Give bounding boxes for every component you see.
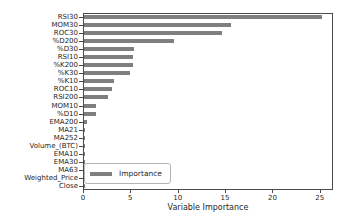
y-tick-label: Close bbox=[0, 182, 78, 190]
y-tick-mark bbox=[79, 130, 83, 131]
x-tick-mark bbox=[272, 190, 273, 193]
x-tick-label: 5 bbox=[128, 194, 132, 202]
x-tick-label: 20 bbox=[268, 194, 277, 202]
bar-ma252 bbox=[84, 136, 85, 140]
bar-mom10 bbox=[84, 104, 96, 108]
bar-ema10 bbox=[84, 152, 85, 156]
y-tick-label: Volume_(BTC) bbox=[0, 142, 78, 150]
x-tick-mark bbox=[130, 190, 131, 193]
legend-label: Importance bbox=[119, 169, 162, 178]
y-tick-mark bbox=[79, 57, 83, 58]
y-tick-mark bbox=[79, 33, 83, 34]
y-tick-mark bbox=[79, 17, 83, 18]
bar--k30 bbox=[84, 71, 130, 75]
y-tick-label: EMA200 bbox=[0, 118, 78, 126]
y-tick-mark bbox=[79, 138, 83, 139]
bar--k10 bbox=[84, 79, 114, 83]
variable-importance-chart: RSI30MOM30ROC30%D200%D30RSI10%K200%K30%K… bbox=[0, 0, 352, 220]
y-tick-label: MOM30 bbox=[0, 21, 78, 29]
y-tick-mark bbox=[79, 186, 83, 187]
x-tick-label: 10 bbox=[173, 194, 182, 202]
y-tick-label: EMA30 bbox=[0, 158, 78, 166]
y-tick-label: ROC10 bbox=[0, 85, 78, 93]
bar-rsi10 bbox=[84, 55, 133, 59]
y-tick-label: ROC30 bbox=[0, 29, 78, 37]
y-tick-mark bbox=[79, 73, 83, 74]
y-tick-label: MA252 bbox=[0, 134, 78, 142]
y-tick-mark bbox=[79, 65, 83, 66]
y-tick-mark bbox=[79, 89, 83, 90]
bar--d30 bbox=[84, 47, 134, 51]
y-tick-mark bbox=[79, 146, 83, 147]
bar-ma21 bbox=[84, 128, 85, 132]
y-tick-label: %K200 bbox=[0, 61, 78, 69]
y-tick-mark bbox=[79, 25, 83, 26]
y-tick-mark bbox=[79, 49, 83, 50]
legend-swatch-icon bbox=[90, 172, 112, 176]
y-tick-mark bbox=[79, 41, 83, 42]
x-axis-title: Variable Importance bbox=[83, 203, 333, 213]
y-tick-label: EMA10 bbox=[0, 150, 78, 158]
x-tick-label: 25 bbox=[315, 194, 324, 202]
y-tick-label: %D30 bbox=[0, 45, 78, 53]
y-tick-mark bbox=[79, 178, 83, 179]
bar-ema200 bbox=[84, 120, 87, 124]
y-tick-mark bbox=[79, 162, 83, 163]
y-tick-mark bbox=[79, 170, 83, 171]
y-tick-label: RSI30 bbox=[0, 13, 78, 21]
y-tick-label: %K30 bbox=[0, 69, 78, 77]
y-tick-label: Weighted_Price bbox=[0, 174, 78, 182]
bar--d10 bbox=[84, 112, 96, 116]
y-tick-label: %D200 bbox=[0, 37, 78, 45]
x-tick-mark bbox=[83, 190, 84, 193]
bar-roc10 bbox=[84, 87, 112, 91]
x-tick-mark bbox=[320, 190, 321, 193]
y-tick-label: RSI200 bbox=[0, 93, 78, 101]
bar-roc30 bbox=[84, 31, 222, 35]
bar-volume-btc- bbox=[84, 144, 85, 148]
y-tick-label: %K10 bbox=[0, 77, 78, 85]
y-tick-label: MA63 bbox=[0, 166, 78, 174]
y-tick-label: %D10 bbox=[0, 110, 78, 118]
bar-rsi30 bbox=[84, 15, 322, 19]
y-tick-label: RSI10 bbox=[0, 53, 78, 61]
x-tick-label: 15 bbox=[221, 194, 230, 202]
bar-rsi200 bbox=[84, 95, 108, 99]
y-tick-mark bbox=[79, 81, 83, 82]
bar-close bbox=[84, 184, 85, 188]
bar-mom30 bbox=[84, 23, 231, 27]
x-tick-mark bbox=[178, 190, 179, 193]
x-tick-label: 0 bbox=[81, 194, 85, 202]
legend: Importance bbox=[84, 163, 171, 184]
y-tick-mark bbox=[79, 154, 83, 155]
y-tick-mark bbox=[79, 122, 83, 123]
y-tick-mark bbox=[79, 106, 83, 107]
bar--k200 bbox=[84, 63, 133, 67]
x-tick-mark bbox=[225, 190, 226, 193]
y-tick-mark bbox=[79, 114, 83, 115]
bar--d200 bbox=[84, 39, 174, 43]
y-tick-label: MOM10 bbox=[0, 102, 78, 110]
y-tick-mark bbox=[79, 97, 83, 98]
y-tick-label: MA21 bbox=[0, 126, 78, 134]
